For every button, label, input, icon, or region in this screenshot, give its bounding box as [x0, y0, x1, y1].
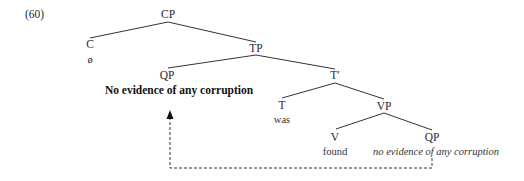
edge-tp-tbar — [256, 55, 335, 69]
edge-cp-tp — [168, 22, 256, 42]
node-cp: CP — [161, 8, 175, 21]
edge-tp-qp — [168, 55, 256, 68]
syntax-tree-diagram: (60) CP C ø TP QP No evidence of any cor… — [0, 0, 524, 181]
node-v: V — [331, 131, 339, 144]
edge-tbar-vp — [335, 83, 384, 99]
edge-cp-c — [90, 22, 168, 38]
node-qp-comp: QP — [425, 131, 440, 144]
edge-vp-v — [336, 113, 384, 129]
node-c: C — [86, 38, 94, 51]
movement-arrow — [170, 118, 432, 168]
edge-vp-qp — [384, 113, 432, 130]
edge-tbar-t — [282, 83, 335, 98]
node-t: T — [278, 99, 285, 112]
word-v: found — [323, 145, 348, 158]
node-vp: VP — [377, 100, 392, 113]
word-qp-comp: no evidence of any corruption — [373, 145, 499, 158]
node-tp: TP — [249, 42, 262, 55]
arrowhead-icon — [167, 110, 174, 119]
word-c-null: ø — [87, 53, 92, 66]
example-number: (60) — [25, 8, 44, 21]
node-qp-spec: QP — [160, 69, 175, 82]
node-t-bar: T′ — [330, 69, 340, 82]
word-qp-spec: No evidence of any corruption — [105, 84, 253, 97]
word-t: was — [274, 113, 290, 126]
